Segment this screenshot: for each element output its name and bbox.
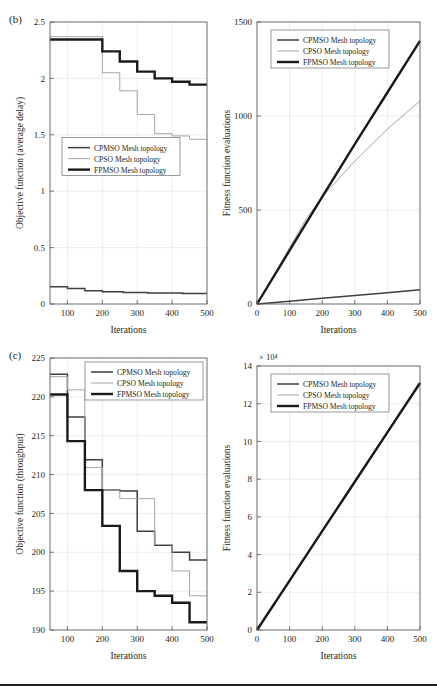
legend-label-1: CPMSO Mesh topology <box>117 368 191 377</box>
y-tick-label: 0 <box>248 625 253 635</box>
x-tick-label: 200 <box>96 634 110 644</box>
y-axis-title: Fitness function evaluations <box>222 444 232 551</box>
x-tick-label: 0 <box>255 308 260 318</box>
x-axis-title: Iterations <box>111 651 147 661</box>
x-tick-label: 500 <box>413 308 427 318</box>
y-tick-label: 220 <box>32 392 46 402</box>
y-tick-label: 1500 <box>234 17 253 27</box>
legend-label-3: FPMSO Mesh topology <box>303 402 376 411</box>
panel-b-label: (b) <box>9 13 22 25</box>
x-tick-label: 500 <box>200 634 214 644</box>
series-line-3 <box>50 39 207 84</box>
legend-label-2: CPSO Mesh topology <box>94 155 161 164</box>
x-tick-label: 300 <box>130 308 144 318</box>
y-tick-label: 210 <box>32 470 46 480</box>
x-tick-label: 500 <box>413 634 427 644</box>
panel-b: (b) 10020030040050000.511.522.5Iteration… <box>0 0 437 340</box>
chart-b-left: 10020030040050000.511.522.5IterationsObj… <box>0 0 220 340</box>
y-tick-label: 2 <box>41 74 46 84</box>
x-axis-title: Iterations <box>321 651 357 661</box>
y-tick-label: 225 <box>32 353 46 363</box>
y-tick-label: 0 <box>248 299 253 309</box>
series-line-2 <box>50 377 207 596</box>
x-tick-label: 300 <box>348 634 362 644</box>
legend-label-2: CPSO Mesh topology <box>303 391 370 400</box>
x-tick-label: 400 <box>381 308 395 318</box>
chart-c-right: 010020030040050002468101214IterationsFit… <box>215 340 437 670</box>
y-axis-exponent-label: × 10⁴ <box>259 352 277 362</box>
y-tick-label: 8 <box>248 474 253 484</box>
y-axis-title: Objective function (throughput) <box>15 433 26 554</box>
legend-label-2: CPSO Mesh topology <box>303 47 370 56</box>
y-tick-label: 200 <box>32 547 46 557</box>
x-tick-label: 400 <box>165 308 179 318</box>
y-tick-label: 0.5 <box>34 243 46 253</box>
y-tick-label: 195 <box>32 586 46 596</box>
y-tick-label: 1 <box>41 186 46 196</box>
x-tick-label: 100 <box>283 308 297 318</box>
legend-label-2: CPSO Mesh topology <box>117 379 184 388</box>
x-tick-label: 200 <box>315 634 329 644</box>
y-tick-label: 4 <box>248 550 253 560</box>
series-line-1 <box>50 287 207 294</box>
x-tick-label: 500 <box>200 308 214 318</box>
series-line-1 <box>50 374 207 560</box>
series-line-3 <box>50 395 207 623</box>
chart-b-right: 0100200300400500050010001500IterationsFi… <box>215 0 437 340</box>
x-axis-title: Iterations <box>321 325 357 335</box>
series-line-3 <box>257 41 420 304</box>
legend-label-3: FPMSO Mesh topology <box>94 166 167 175</box>
y-tick-label: 205 <box>32 509 46 519</box>
y-tick-label: 0 <box>41 299 46 309</box>
x-tick-label: 100 <box>283 634 297 644</box>
y-tick-label: 12 <box>243 399 252 409</box>
panel-c-label: (c) <box>9 349 21 361</box>
legend-label-1: CPMSO Mesh topology <box>303 380 377 389</box>
y-tick-label: 500 <box>239 205 253 215</box>
y-tick-label: 14 <box>243 361 253 371</box>
legend-label-3: FPMSO Mesh topology <box>117 390 190 399</box>
y-axis-title: Objective function (average delay) <box>15 97 26 229</box>
y-tick-label: 1000 <box>234 111 253 121</box>
x-tick-label: 300 <box>130 634 144 644</box>
x-axis-title: Iterations <box>111 325 147 335</box>
x-tick-label: 100 <box>61 634 75 644</box>
chart-c-left: 100200300400500190195200205210215220225I… <box>0 340 220 670</box>
x-tick-label: 200 <box>96 308 110 318</box>
legend-label-1: CPMSO Mesh topology <box>94 144 168 153</box>
series-line-1 <box>257 290 420 304</box>
legend-label-3: FPMSO Mesh topology <box>303 58 376 67</box>
series-line-2 <box>257 101 420 304</box>
panel-c: (c) 100200300400500190195200205210215220… <box>0 340 437 670</box>
y-tick-label: 215 <box>32 431 46 441</box>
footer-rule <box>0 684 437 686</box>
x-tick-label: 200 <box>315 308 329 318</box>
y-tick-label: 2.5 <box>34 17 46 27</box>
legend-label-1: CPMSO Mesh topology <box>303 36 377 45</box>
y-tick-label: 6 <box>248 512 253 522</box>
x-tick-label: 400 <box>165 634 179 644</box>
y-axis-title: Fitness function evaluations <box>222 109 232 216</box>
x-tick-label: 300 <box>348 308 362 318</box>
x-tick-label: 400 <box>381 634 395 644</box>
figure-container: (b) 10020030040050000.511.522.5Iteration… <box>0 0 437 695</box>
y-tick-label: 2 <box>248 587 253 597</box>
x-tick-label: 100 <box>61 308 75 318</box>
series-line-3 <box>257 383 420 630</box>
series-line-2 <box>50 37 207 140</box>
x-tick-label: 0 <box>255 634 260 644</box>
y-tick-label: 190 <box>32 625 46 635</box>
y-tick-label: 1.5 <box>34 130 46 140</box>
y-tick-label: 10 <box>243 437 253 447</box>
